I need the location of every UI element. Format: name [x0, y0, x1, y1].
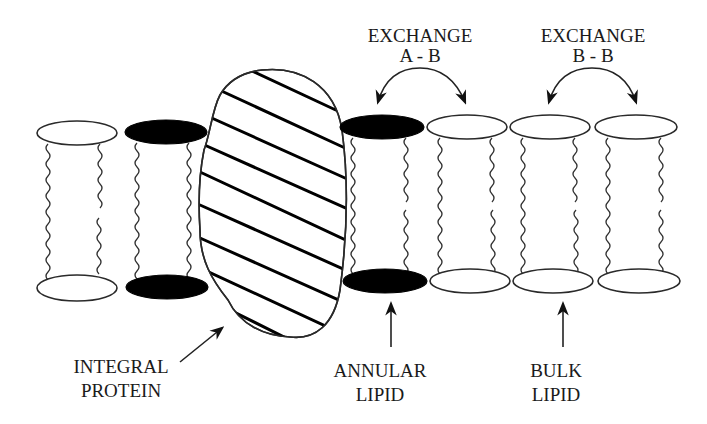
lipid-head-bottom — [37, 275, 117, 301]
bulk-lipid-sublabel: LIPID — [532, 384, 581, 405]
lipid-tail — [659, 138, 663, 202]
bulk-lipid-1 — [427, 115, 510, 293]
lipid-tail — [606, 138, 610, 274]
lipid-tail — [574, 210, 578, 274]
lipid-head-top — [595, 115, 677, 139]
lipid-head-top — [427, 115, 507, 139]
lipid-tail — [490, 138, 494, 202]
exchange-ab-sublabel: A - B — [399, 45, 440, 66]
integral-protein — [199, 69, 350, 345]
lipid-tail — [97, 218, 101, 274]
lipid-tail — [135, 143, 139, 279]
lipid-tail — [521, 138, 525, 274]
lipid-head-bottom — [343, 269, 427, 293]
lipid-tail — [404, 210, 408, 274]
lipid-tail — [46, 144, 50, 280]
lipid-head-bottom — [126, 275, 208, 299]
lipid-tail — [491, 210, 495, 274]
bulk-lipid-label: BULK — [530, 360, 582, 381]
lipid-tail — [351, 138, 355, 274]
lipid-protein-diagram: EXCHANGE A - B EXCHANGE B - B INTEGRAL P… — [0, 0, 707, 424]
integral-protein-sublabel: PROTEIN — [81, 380, 162, 401]
lipid-head-top — [340, 115, 424, 139]
lipid-tail — [573, 138, 577, 202]
lipid-head-bottom — [430, 269, 510, 293]
integral-protein-pointer-arrow-icon — [180, 328, 222, 362]
protein-outline — [199, 69, 346, 337]
annular-lipid-right — [340, 115, 427, 293]
exchange-ab-label: EXCHANGE — [368, 25, 473, 46]
lipid-head-top — [510, 115, 590, 139]
lipid-tail — [438, 138, 442, 274]
integral-protein-label: INTEGRAL — [74, 356, 169, 377]
exchange-ab-arrow-icon — [378, 68, 465, 102]
exchange-bb-label: EXCHANGE — [541, 25, 646, 46]
annular-lipid-sublabel: LIPID — [356, 384, 405, 405]
lipid-tail — [98, 144, 102, 208]
lipid-head-bottom — [598, 269, 680, 293]
lipid-tail — [404, 138, 408, 202]
annular-lipid-label: ANNULAR — [334, 360, 427, 381]
lipid-head-top — [125, 120, 207, 144]
bulk-lipid-left — [37, 121, 117, 301]
bulk-lipid-3 — [595, 115, 680, 293]
exchange-bb-arrow-icon — [549, 68, 636, 102]
lipid-tail — [659, 210, 663, 274]
lipid-head-bottom — [513, 269, 593, 293]
exchange-bb-sublabel: B - B — [572, 45, 613, 66]
lipid-tail — [187, 143, 191, 279]
bulk-lipid-2 — [510, 115, 593, 293]
annular-lipid-left — [125, 120, 208, 299]
lipid-head-top — [37, 121, 117, 145]
